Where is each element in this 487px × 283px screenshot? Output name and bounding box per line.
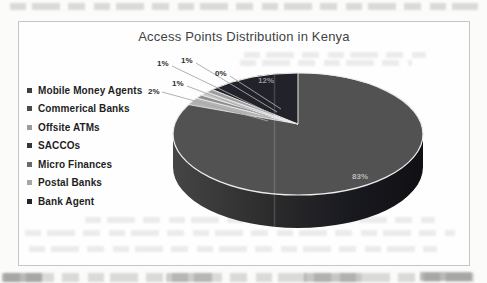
data-label-saccos: 1% — [157, 59, 169, 68]
data-label-postal-banks: 1% — [181, 56, 193, 65]
data-label-offsite-atms: 1% — [172, 79, 184, 88]
data-label-commerical-banks: 2% — [148, 87, 160, 96]
data-label-mobile-money-agents: 83% — [352, 172, 368, 181]
data-label-bank-agent: 12% — [258, 76, 274, 85]
pie-chart — [0, 0, 487, 283]
data-label-micro-finances: 0% — [215, 69, 227, 78]
scanned-document-page: { "chart": { "title": "Access Points Dis… — [0, 0, 487, 283]
